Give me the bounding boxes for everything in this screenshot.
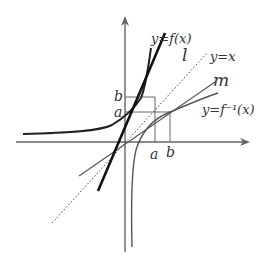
tick-label-x-b: b: [166, 145, 175, 159]
tick-label-x-a: a: [150, 147, 158, 161]
tick-label-y-b: b: [114, 89, 123, 103]
diagram-canvas: [0, 0, 268, 268]
tick-label-y-a: a: [114, 105, 122, 119]
label-f-curve: y=f(x): [151, 32, 192, 45]
function-inverse-diagram: y=f(x) l y=x m y=f⁻¹(x) b a a b: [0, 0, 268, 268]
label-line-l: l: [182, 47, 187, 64]
label-identity-line: y=x: [210, 50, 236, 63]
label-inverse-curve: y=f⁻¹(x): [202, 103, 255, 116]
label-line-m: m: [213, 72, 229, 89]
identity-line: [52, 53, 207, 223]
f-curve: [23, 48, 151, 134]
